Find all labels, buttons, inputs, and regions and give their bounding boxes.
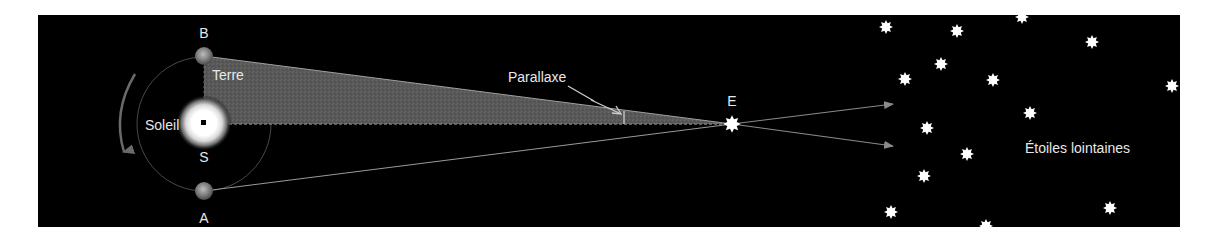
parallax-diagram: B Terre Soleil S A Parallaxe E Étoiles l…	[0, 0, 1217, 243]
label-e: E	[727, 93, 736, 109]
label-b: B	[199, 25, 208, 41]
sun-center-marker	[201, 120, 206, 125]
earth-a-icon	[195, 182, 213, 200]
label-earth: Terre	[212, 67, 244, 83]
label-a: A	[199, 210, 209, 226]
label-distant-stars: Étoiles lointaines	[1025, 140, 1130, 156]
label-sun: Soleil	[145, 117, 179, 133]
label-parallax: Parallaxe	[508, 69, 567, 85]
star-e-icon	[723, 115, 741, 133]
label-s: S	[199, 149, 208, 165]
earth-b-icon	[195, 47, 213, 65]
